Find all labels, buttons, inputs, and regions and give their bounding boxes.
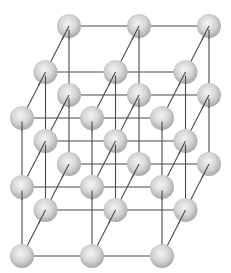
- lattice-svg: [0, 0, 231, 273]
- atom-sphere: [80, 244, 104, 268]
- atom-sphere: [150, 244, 174, 268]
- atoms: [10, 14, 221, 268]
- lattice-diagram: [0, 0, 231, 273]
- atom-sphere: [10, 244, 34, 268]
